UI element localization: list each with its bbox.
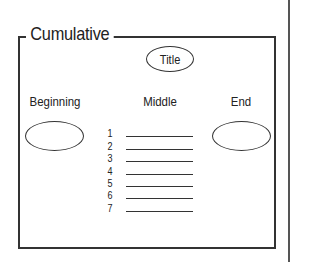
item-number: 1 bbox=[107, 129, 115, 139]
list-item: 5 bbox=[107, 177, 193, 189]
blank-line[interactable] bbox=[126, 198, 193, 199]
list-item: 6 bbox=[107, 189, 193, 201]
item-number: 3 bbox=[107, 154, 115, 164]
beginning-label: Beginning bbox=[24, 94, 86, 110]
item-number: 4 bbox=[107, 167, 115, 177]
list-item: 3 bbox=[107, 152, 193, 164]
list-item: 4 bbox=[107, 164, 193, 176]
blank-line[interactable] bbox=[126, 136, 193, 137]
middle-label: Middle bbox=[129, 94, 191, 110]
blank-line[interactable] bbox=[126, 186, 193, 187]
blank-line[interactable] bbox=[126, 161, 193, 162]
middle-list: 1 2 3 4 5 6 7 bbox=[107, 127, 193, 214]
end-oval[interactable] bbox=[212, 121, 271, 151]
blank-line[interactable] bbox=[126, 174, 193, 175]
title-oval-label: Title bbox=[160, 52, 180, 67]
end-label: End bbox=[210, 94, 272, 110]
item-number: 5 bbox=[107, 179, 115, 189]
beginning-oval[interactable] bbox=[25, 121, 84, 151]
item-number: 6 bbox=[107, 191, 115, 201]
list-item: 7 bbox=[107, 201, 193, 213]
blank-line[interactable] bbox=[126, 149, 193, 150]
list-item: 1 bbox=[107, 127, 193, 139]
item-number: 2 bbox=[107, 142, 115, 152]
blank-line[interactable] bbox=[126, 211, 193, 212]
frame-title: Cumulative bbox=[26, 22, 114, 46]
list-item: 2 bbox=[107, 139, 193, 151]
title-oval[interactable]: Title bbox=[146, 46, 194, 72]
page-edge-rule bbox=[288, 0, 290, 262]
item-number: 7 bbox=[107, 204, 115, 214]
